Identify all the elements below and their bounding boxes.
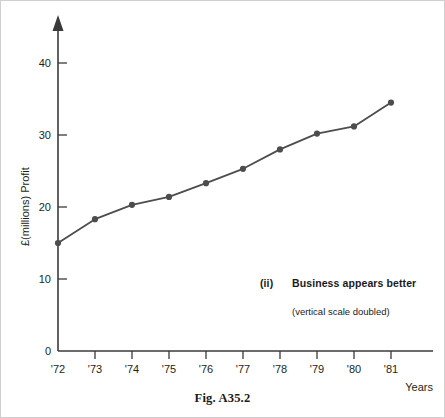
x-tick-label-77: '77 — [236, 363, 250, 375]
y-axis-arrowhead — [53, 15, 64, 31]
annotation-subtitle: (vertical scale doubled) — [292, 306, 390, 317]
x-tick-label-72: '72 — [51, 363, 65, 375]
data-point — [92, 216, 98, 222]
data-point — [351, 123, 357, 129]
data-point — [203, 180, 209, 186]
x-tick-label-75: '75 — [162, 363, 176, 375]
y-tick-label-30: 30 — [39, 129, 51, 141]
data-point — [314, 131, 320, 137]
y-axis-ticks — [58, 63, 67, 279]
y-tick-label-0: 0 — [45, 345, 51, 357]
x-tick-label-76: '76 — [199, 363, 213, 375]
x-tick-label-79: '79 — [310, 363, 324, 375]
line-chart: 0 10 20 30 40 £(millions) Profit '72 '73… — [1, 1, 445, 418]
data-point — [388, 100, 394, 106]
y-axis-title: £(millions) Profit — [19, 167, 31, 246]
x-axis-ticks — [95, 351, 391, 359]
y-tick-label-20: 20 — [39, 201, 51, 213]
x-tick-label-81: '81 — [384, 363, 398, 375]
profit-line — [58, 103, 391, 243]
figure-caption: Fig. A35.2 — [1, 391, 444, 406]
data-point — [55, 240, 61, 246]
data-point — [166, 194, 172, 200]
x-tick-label-80: '80 — [347, 363, 361, 375]
profit-markers — [55, 100, 394, 247]
x-tick-label-73: '73 — [88, 363, 102, 375]
data-point — [129, 202, 135, 208]
x-tick-label-74: '74 — [125, 363, 139, 375]
x-tick-label-78: '78 — [273, 363, 287, 375]
y-tick-label-40: 40 — [39, 57, 51, 69]
annotation-title: Business appears better — [292, 277, 422, 290]
data-point — [240, 166, 246, 172]
y-tick-label-10: 10 — [39, 273, 51, 285]
annotation-marker: (ii) — [260, 277, 273, 289]
data-point — [277, 146, 283, 152]
figure-container: 0 10 20 30 40 £(millions) Profit '72 '73… — [0, 0, 445, 418]
